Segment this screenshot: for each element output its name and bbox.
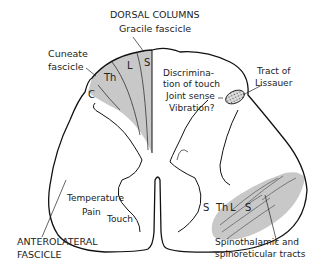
dorsal-seg-s: S [144,57,150,68]
spinothalamic-label-2: spinoreticular tracts [215,249,306,259]
lissauer-label-2: Lissauer [255,78,293,88]
ventral-seg-s1: S [203,202,209,213]
dc-func-3: Joint sense [165,91,215,101]
dc-func-1: Discrimina- [163,68,214,78]
ventral-seg-l: L [230,202,236,213]
dorsal-columns-shading [88,50,152,153]
dc-func-leader-2 [177,150,188,160]
cuneate-label-2: fascicle [48,61,84,72]
gracile-label: Gracile fascicle [119,23,191,34]
anterolateral-label-2: FASCICLE [17,249,62,260]
gracile-leader [133,37,144,52]
lissauer-label-1: Tract of [256,66,291,76]
spinothalamic-label-1: Spinothalamic and [215,237,299,247]
tract-of-lissauer [223,87,246,106]
ventral-seg-s2: S [245,202,251,213]
dorsal-seg-l: L [127,60,133,71]
al-func-pain: Pain [82,207,101,217]
ventral-seg-th: Th [215,202,228,213]
al-func-touch: Touch [106,214,133,224]
dc-func-4: Vibration? [169,103,215,113]
dorsal-seg-c: C [88,89,95,100]
right-dorsal-horn [220,110,238,185]
spinal-cord-diagram: DORSAL COLUMNS Gracile fascicle Cuneate … [0,0,321,279]
al-func-temperature: Temperature [66,193,124,203]
anterolateral-label-1: ANTEROLATERAL [17,236,98,247]
dc-func-2: tion of touch [163,79,220,89]
cuneate-leader [86,68,96,76]
dorsal-columns-label: DORSAL COLUMNS [110,9,200,20]
cuneate-label-1: Cuneate [48,48,88,59]
dorsal-seg-th: Th [103,72,116,83]
